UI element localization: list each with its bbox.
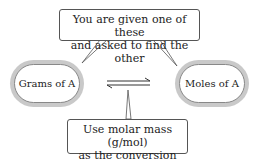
grams-node: Grams of A <box>10 60 84 107</box>
bottom-callout-line2: as the conversion factor <box>68 149 187 163</box>
bottom-callout: Use molar mass (g/mol) as the conversion… <box>67 119 188 154</box>
top-callout: You are given one of these and asked to … <box>59 9 200 41</box>
grams-node-label: Grams of A <box>19 78 76 89</box>
top-callout-line1: You are given one of these <box>60 13 199 39</box>
equilibrium-arrow-icon <box>107 78 150 88</box>
diagram: You are given one of these and asked to … <box>0 0 258 163</box>
moles-node: Moles of A <box>175 60 249 107</box>
moles-node-label: Moles of A <box>185 78 239 89</box>
bottom-callout-line1: Use molar mass (g/mol) <box>68 123 187 149</box>
top-callout-line2: and asked to find the other <box>60 39 199 65</box>
